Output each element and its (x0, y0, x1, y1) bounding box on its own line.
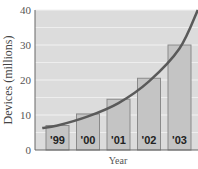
x-axis-label: Year (109, 155, 128, 166)
bar-category-label: '99 (50, 134, 65, 146)
bar-category-label: '01 (111, 134, 126, 146)
bar-category-label: '03 (172, 134, 187, 146)
y-tick-label: 0 (26, 144, 32, 156)
y-tick-label: 20 (20, 74, 32, 86)
bar-category-label: '02 (142, 134, 157, 146)
y-tick-label: 30 (20, 39, 32, 51)
y-tick-label: 40 (20, 4, 32, 16)
bar-category-label: '00 (81, 134, 96, 146)
bar-chart: '99'00'01'02'03 010203040 Devices (milli… (0, 0, 198, 169)
y-tick-labels: 010203040 (20, 4, 32, 156)
y-axis-label: Devices (millions) (1, 36, 15, 125)
y-tick-label: 10 (20, 109, 32, 121)
